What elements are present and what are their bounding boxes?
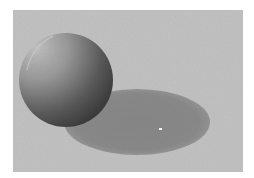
sphere-scene xyxy=(13,10,243,172)
sphere xyxy=(19,33,113,127)
specular-speck xyxy=(159,128,162,130)
figure-caption xyxy=(0,175,254,178)
sphere-photo xyxy=(13,10,243,172)
